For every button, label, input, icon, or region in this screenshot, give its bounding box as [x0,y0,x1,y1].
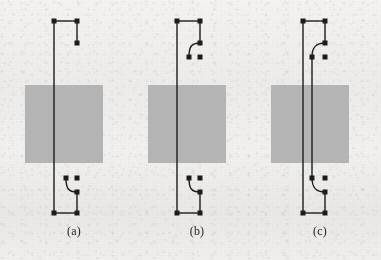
node-bottom-curve-end [75,190,80,195]
panel-c [271,19,349,216]
node-bottom-free [198,176,203,181]
node-top-curve-start [198,41,203,46]
panel-label-a: (a) [54,224,94,239]
panel-label-c: (c) [300,224,340,239]
node-bottom-right [198,211,203,216]
panel-c-gray-block [271,85,349,163]
node-bottom-curve-start [64,176,69,181]
node-bottom-curve-end [198,190,203,195]
node-bottom-left [175,211,180,216]
panel-b [148,19,226,216]
figure-container: (a) (b) (c) [0,0,381,260]
node-bottom-left [301,211,306,216]
node-bottom-left [52,211,57,216]
node-bottom-curve-end [323,190,328,195]
node-bottom-free [75,176,80,181]
node-bottom-free [323,176,328,181]
node-top-curve-end [187,55,192,60]
node-bottom-right [323,211,328,216]
panel-a-gray-block [25,85,103,163]
figure-drawing [0,0,381,260]
node-bottom-right [75,211,80,216]
panel-a [25,19,103,216]
node-top-right [75,19,80,24]
node-top-stub-end [75,41,80,46]
node-top-right [323,19,328,24]
node-top-left [301,19,306,24]
panel-b-gray-block [148,85,226,163]
node-top-curve-end [310,55,315,60]
node-top-free [198,55,203,60]
node-top-left [175,19,180,24]
node-top-curve-start [323,41,328,46]
node-top-right [198,19,203,24]
node-top-free [323,55,328,60]
node-bottom-curve-start [310,176,315,181]
panel-label-b: (b) [177,224,217,239]
node-top-left [52,19,57,24]
node-bottom-curve-start [187,176,192,181]
